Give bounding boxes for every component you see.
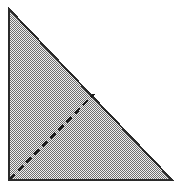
triangle-figure — [0, 0, 180, 190]
figure-canvas — [0, 0, 180, 190]
